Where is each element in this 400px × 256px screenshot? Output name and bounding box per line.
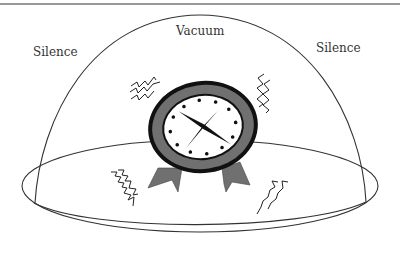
label-silence-left: Silence [33,45,78,59]
alarm-clock [142,74,264,180]
vibration-bottom-left [111,172,134,206]
vibration-top-right [257,74,264,107]
diagram-canvas: Silence Vacuum Silence [0,0,400,256]
label-silence-right: Silence [316,41,361,55]
label-vacuum: Vacuum [176,24,224,38]
vibration-bottom-right [257,181,278,214]
clock-foot-left [148,168,182,192]
